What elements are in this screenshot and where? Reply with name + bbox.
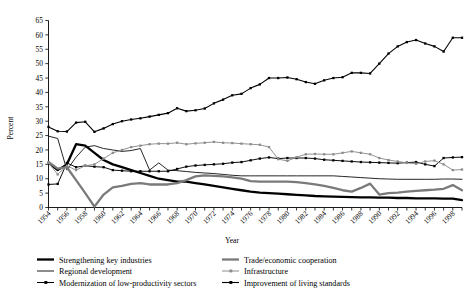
data-point-marker [415,39,417,41]
series-4 [47,141,463,176]
data-point-marker [360,72,362,74]
data-point-marker [268,156,270,158]
y-tick-label: 10 [36,174,44,183]
data-point-marker [130,146,132,148]
data-point-marker [66,130,68,132]
x-axis-title: Year [225,236,239,245]
x-tick-label: 1978 [256,209,273,226]
y-tick-label: 20 [36,146,44,155]
data-point-marker [231,94,233,96]
data-point-marker [57,183,59,185]
data-point-marker [112,169,114,171]
x-tick-label: 1956 [54,209,71,226]
line-chart: Percent Year 05101520253035404550556065 … [0,0,468,295]
data-point-marker [84,165,86,167]
data-point-marker [130,118,132,120]
legend-item: Regional development [37,267,133,276]
data-point-marker [158,114,160,116]
data-point-marker [424,160,426,162]
x-tick-label: 1954 [36,209,53,226]
x-tick-label: 1984 [311,209,328,226]
y-tick-label: 50 [36,59,44,68]
data-point-marker [102,127,104,129]
data-point-marker [332,153,334,155]
data-point-marker [158,142,160,144]
data-point-marker [452,37,454,39]
series-line [49,162,463,207]
series-1 [49,136,463,179]
legend-label: Infrastructure [244,267,288,276]
x-tick-label: 1998 [440,209,457,226]
data-point-marker [130,170,132,172]
data-point-marker [167,170,169,172]
x-tick-label: 1980 [275,209,292,226]
data-point-marker [185,166,187,168]
x-tick-label: 1982 [293,209,310,226]
data-point-marker [93,166,95,168]
y-tick-label: 5 [39,189,43,198]
data-point-marker [332,159,334,161]
data-point-marker [259,144,261,146]
data-point-marker [213,141,215,143]
data-point-marker [314,83,316,85]
data-point-marker [286,76,288,78]
data-point-marker [387,162,389,164]
data-point-marker [397,45,399,47]
data-point-marker [213,163,215,165]
data-point-marker [213,102,215,104]
data-point-marker [305,81,307,83]
data-point-marker [461,168,463,170]
data-point-marker [204,164,206,166]
data-point-marker [433,165,435,167]
data-point-marker [102,166,104,168]
data-point-marker [112,152,114,154]
x-axis-tick-labels: 1954195619581960196219641966196819701972… [36,208,462,226]
data-point-marker [461,156,463,158]
data-point-marker [176,107,178,109]
data-point-marker [442,50,444,52]
data-point-marker [158,170,160,172]
data-point-marker [461,37,463,39]
legend-label: Strengthening key industries [59,256,152,265]
data-point-marker [341,152,343,154]
data-point-marker [121,170,123,172]
data-point-marker [139,145,141,147]
x-tick-label: 1992 [385,209,402,226]
legend-swatch-marker [229,281,232,284]
data-point-marker [360,161,362,163]
legend-label: Trade/economic cooperation [244,256,337,265]
y-axis-title: Percent [6,116,15,140]
data-point-marker [268,146,270,148]
data-point-marker [231,161,233,163]
data-point-marker [47,162,49,164]
data-point-marker [240,93,242,95]
data-point-marker [148,143,150,145]
data-point-marker [240,142,242,144]
data-point-marker [148,115,150,117]
data-point-marker [167,112,169,114]
data-point-marker [378,161,380,163]
data-point-marker [102,157,104,159]
data-point-marker [139,117,141,119]
y-tick-label: 60 [36,31,44,40]
data-point-marker [433,45,435,47]
legend-label: Regional development [59,267,133,276]
x-tick-label: 1964 [127,209,144,226]
data-point-marker [176,168,178,170]
x-tick-label: 1994 [403,209,420,226]
data-point-marker [222,163,224,165]
y-tick-label: 45 [36,74,44,83]
data-point-marker [194,142,196,144]
y-tick-label: 35 [36,103,44,112]
data-point-marker [277,77,279,79]
data-point-marker [93,131,95,133]
data-point-marker [66,162,68,164]
series-5 [47,37,463,133]
data-point-marker [57,130,59,132]
data-point-marker [194,109,196,111]
series-3 [49,162,463,207]
data-point-marker [378,63,380,65]
data-point-marker [112,123,114,125]
data-point-marker [139,170,141,172]
x-tick-label: 1974 [219,209,236,226]
